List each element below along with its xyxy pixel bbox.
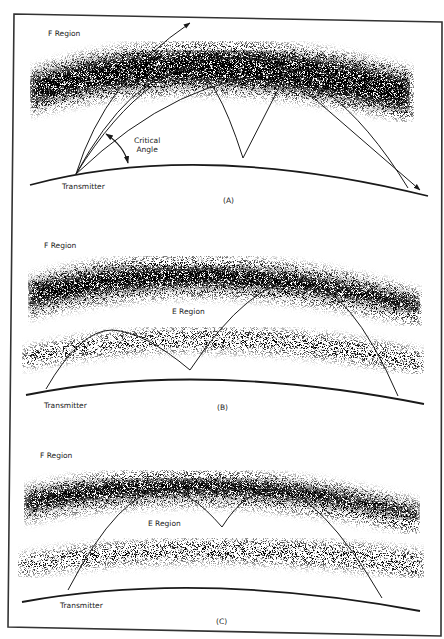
panel-b-e-region-label: E Region xyxy=(172,308,205,316)
panel-c-f-region-label: F Region xyxy=(40,452,72,460)
panel-a xyxy=(30,23,428,196)
panel-a-f-region-label: F Region xyxy=(48,30,80,38)
panel-c-e-region-label: E Region xyxy=(148,520,181,528)
panel-b xyxy=(22,256,424,404)
earth-surface-a xyxy=(30,165,428,196)
panel-a-caption: (A) xyxy=(223,197,234,205)
e-region-band-c xyxy=(18,539,424,578)
panel-c xyxy=(18,470,424,611)
critical-angle-line1: Critical xyxy=(134,136,160,145)
panel-b-caption: (B) xyxy=(217,404,228,412)
panel-c-caption: (C) xyxy=(216,618,227,626)
critical-angle-line2: Angle xyxy=(136,145,157,154)
e-region-band-b xyxy=(22,328,424,374)
panel-b-transmitter-label: Transmitter xyxy=(44,402,87,410)
panel-a-transmitter-label: Transmitter xyxy=(62,183,105,191)
panel-b-f-region-label: F Region xyxy=(44,242,76,250)
critical-angle-label: Critical Angle xyxy=(134,136,160,155)
panel-c-transmitter-label: Transmitter xyxy=(60,602,103,610)
propagation-diagram xyxy=(0,0,444,639)
